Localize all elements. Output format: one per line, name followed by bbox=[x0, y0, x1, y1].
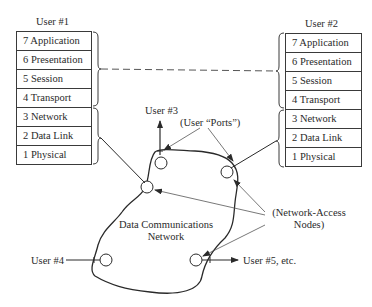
node-left bbox=[141, 181, 153, 193]
brace-lower-right bbox=[276, 110, 284, 167]
user2-layer-transport: 4 Transport bbox=[286, 91, 361, 110]
user1-osi-stack: 7 Application 6 Presentation 5 Session 4… bbox=[16, 31, 92, 165]
user1-layer-presentation: 6 Presentation bbox=[17, 51, 91, 70]
user1-layer-session: 5 Session bbox=[17, 70, 91, 89]
user1-layer-transport: 4 Transport bbox=[17, 89, 91, 108]
user1-layer-physical: 1 Physical bbox=[17, 146, 91, 164]
user1-layer-network: 3 Network bbox=[17, 108, 91, 127]
user2-title: User #2 bbox=[305, 18, 338, 30]
user2-layer-session: 5 Session bbox=[286, 72, 361, 91]
user2-layer-application: 7 Application bbox=[286, 34, 361, 53]
user5-label: User #5, etc. bbox=[243, 255, 296, 267]
node-user4 bbox=[100, 254, 112, 266]
user2-link bbox=[231, 141, 276, 168]
user3-label: User #3 bbox=[145, 105, 178, 117]
node-user3 bbox=[155, 157, 167, 169]
user1-link bbox=[101, 138, 145, 183]
peer-dashed-line bbox=[101, 69, 276, 71]
nodes-pointer-2 bbox=[155, 190, 265, 215]
brace-upper-left bbox=[93, 32, 101, 106]
node-user5 bbox=[190, 254, 202, 266]
nodes-pointer-1 bbox=[234, 180, 265, 212]
user-ports-label: (User “Ports”) bbox=[180, 117, 240, 129]
user1-layer-application: 7 Application bbox=[17, 32, 91, 51]
network-label: Data Communications Network bbox=[118, 219, 214, 243]
user1-layer-data-link: 2 Data Link bbox=[17, 127, 91, 146]
user2-layer-presentation: 6 Presentation bbox=[286, 53, 361, 72]
user2-layer-network: 3 Network bbox=[286, 110, 361, 129]
user2-layer-data-link: 2 Data Link bbox=[286, 129, 361, 148]
user2-osi-stack: 7 Application 6 Presentation 5 Session 4… bbox=[285, 33, 362, 167]
brace-lower-left bbox=[93, 108, 101, 164]
user1-title: User #1 bbox=[36, 16, 69, 28]
user2-layer-physical: 1 Physical bbox=[286, 148, 361, 166]
brace-upper-right bbox=[276, 33, 284, 108]
ports-pointer-1 bbox=[164, 128, 200, 150]
user4-label: User #4 bbox=[31, 255, 64, 267]
network-access-nodes-label: (Network-Access Nodes) bbox=[266, 207, 352, 231]
